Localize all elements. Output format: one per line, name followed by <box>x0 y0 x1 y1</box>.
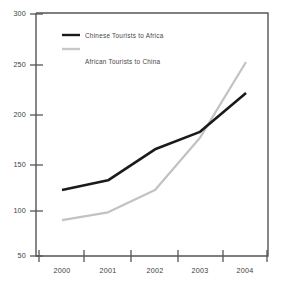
y-axis-label-200: 200 <box>13 110 26 119</box>
y-axis-label-150: 150 <box>13 160 26 169</box>
x-axis-label-2000: 2000 <box>54 266 71 275</box>
x-axis-label-2004: 2004 <box>237 266 254 275</box>
chart-canvas: 300 250 200 150 100 50 2000 2001 2002 20… <box>0 0 282 291</box>
y-axis-label-250: 250 <box>13 60 26 69</box>
x-axis-label-2002: 2002 <box>147 266 164 275</box>
legend-label-chinese-tourists-to-africa: Chinese Tourists to Africa <box>85 32 164 39</box>
x-axis-label-2003: 2003 <box>192 266 209 275</box>
line-chart: 300 250 200 150 100 50 2000 2001 2002 20… <box>0 0 282 291</box>
y-axis-label-300: 300 <box>13 9 26 18</box>
x-axis-labels: 2000 2001 2002 2003 2004 <box>54 266 254 275</box>
x-axis-label-2001: 2001 <box>100 266 117 275</box>
y-axis-labels: 300 250 200 150 100 50 <box>13 9 26 260</box>
series-line-african-tourists-to-china <box>62 62 246 220</box>
chart-legend: Chinese Tourists to Africa African Touri… <box>62 32 164 65</box>
y-axis-label-50: 50 <box>18 251 26 260</box>
legend-label-african-tourists-to-china: African Tourists to China <box>85 58 161 65</box>
y-axis-label-100: 100 <box>13 206 26 215</box>
